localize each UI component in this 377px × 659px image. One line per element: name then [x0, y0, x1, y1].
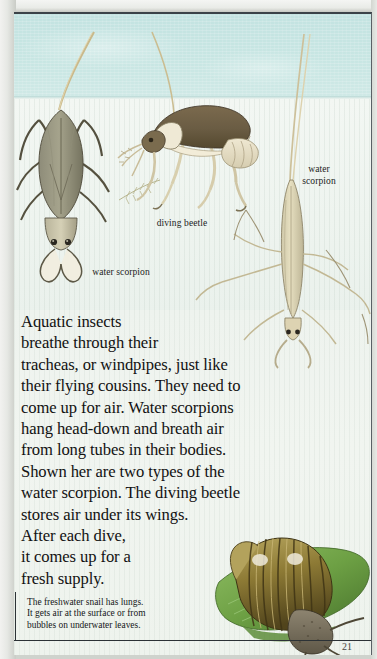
scanned-book-page: water scorpion diving beetle water scorp…	[0, 0, 377, 659]
body-line: tracheas, or windpipes, just like	[21, 354, 321, 375]
label-water-scorpion-right-line2: scorpion	[302, 176, 336, 186]
body-line: breathe through their	[21, 332, 321, 353]
label-water-scorpion-right: water scorpion	[286, 164, 352, 187]
water-surface-band	[14, 14, 371, 97]
body-line: stores air under its wings.	[21, 504, 321, 525]
body-line: from long tubes in their bodies.	[21, 439, 321, 460]
body-line: Shown her are two types of the	[21, 461, 321, 482]
body-line: their flying cousins. They need to	[21, 375, 321, 396]
body-line: After each dive,	[21, 525, 321, 546]
body-line: it comes up for a	[21, 546, 321, 567]
body-text: Aquatic insects breathe through their tr…	[21, 311, 321, 589]
page-bottom-rule	[14, 640, 371, 641]
page-number: 21	[334, 641, 360, 652]
body-line: come up for air. Water scorpions	[21, 397, 321, 418]
body-line: hang head-down and breath air	[21, 418, 321, 439]
label-diving-beetle: diving beetle	[132, 218, 232, 230]
page-sheet: water scorpion diving beetle water scorp…	[14, 12, 372, 655]
caption-line: It gets air at the surface or from	[27, 608, 221, 619]
snail-caption-box: The freshwater snail has lungs. It gets …	[15, 592, 221, 640]
label-water-scorpion-right-line1: water	[308, 164, 330, 174]
illustration-scene	[14, 99, 371, 314]
label-water-scorpion-left: water scorpion	[66, 267, 176, 279]
caption-line: bubbles on underwater leaves.	[27, 620, 221, 631]
caption-line: The freshwater snail has lungs.	[27, 597, 221, 608]
body-line: Aquatic insects	[21, 311, 321, 332]
body-line: water scorpion. The diving beetle	[21, 482, 321, 503]
body-line: fresh supply.	[21, 568, 321, 589]
